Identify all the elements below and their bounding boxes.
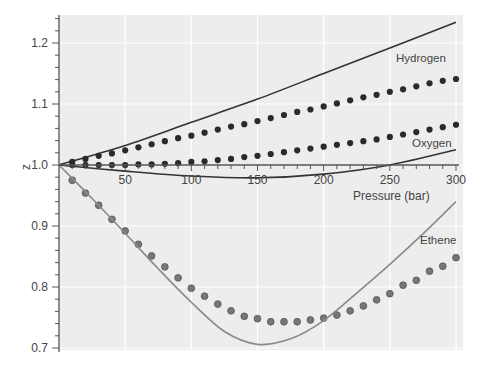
data-point [228, 156, 234, 162]
data-point [400, 131, 406, 137]
data-point [440, 124, 446, 130]
data-point [374, 136, 380, 142]
data-point [439, 263, 446, 270]
data-point [440, 78, 446, 84]
data-point [96, 153, 102, 159]
y-tick-label: 1.1 [31, 97, 48, 111]
data-point [334, 142, 340, 148]
data-point [188, 133, 194, 139]
x-tick-label: 300 [446, 173, 466, 187]
data-point [426, 268, 433, 275]
x-tick-label: 250 [380, 173, 400, 187]
data-point [347, 97, 353, 103]
data-point [268, 151, 274, 157]
data-point [135, 144, 141, 150]
data-point [373, 296, 380, 303]
data-point [374, 92, 380, 98]
data-point [321, 103, 327, 109]
data-point [321, 144, 327, 150]
data-point [241, 121, 247, 127]
data-point [294, 109, 300, 115]
data-point [254, 153, 260, 159]
y-tick-label: 0.8 [31, 280, 48, 294]
data-point [161, 263, 168, 270]
x-tick-label: 50 [118, 173, 132, 187]
data-point [267, 318, 274, 325]
data-point [453, 76, 459, 82]
data-point [188, 159, 194, 165]
data-point [294, 147, 300, 153]
data-point [268, 115, 274, 121]
data-point [307, 145, 313, 151]
data-point [307, 106, 313, 112]
data-point [294, 318, 301, 325]
data-point [347, 307, 354, 314]
data-point [387, 134, 393, 140]
y-tick-label: 0.9 [31, 219, 48, 233]
data-point [281, 112, 287, 118]
data-point [360, 303, 367, 310]
data-point [400, 282, 407, 289]
data-point [201, 293, 208, 300]
label-ethene: Ethene [420, 234, 456, 246]
data-point [215, 127, 221, 133]
data-point [254, 118, 260, 124]
data-point [360, 94, 366, 100]
x-axis-title: Pressure (bar) [353, 189, 430, 203]
data-point [149, 141, 155, 147]
data-point [413, 277, 420, 284]
data-point [281, 149, 287, 155]
data-point [228, 307, 235, 314]
data-point [175, 274, 182, 281]
data-point [241, 154, 247, 160]
data-point [122, 147, 128, 153]
data-point [82, 156, 88, 162]
data-point [347, 140, 353, 146]
data-point [254, 315, 261, 322]
data-point [162, 138, 168, 144]
y-tick-label: 0.7 [31, 341, 48, 355]
data-point [426, 80, 432, 86]
y-axis-title: z [19, 164, 33, 170]
data-point [201, 130, 207, 136]
data-point [387, 89, 393, 95]
x-tick-label: 150 [247, 173, 267, 187]
label-oxygen: Oxygen [412, 137, 452, 149]
data-point [426, 127, 432, 133]
data-point [334, 100, 340, 106]
data-point [201, 158, 207, 164]
data-point [453, 254, 460, 261]
data-point [413, 129, 419, 135]
data-point [400, 86, 406, 92]
data-point [281, 318, 288, 325]
data-point [453, 122, 459, 128]
x-tick-label: 100 [181, 173, 201, 187]
data-point [214, 301, 221, 308]
data-point [241, 313, 248, 320]
y-tick-label: 1.0 [31, 158, 48, 172]
data-point [360, 138, 366, 144]
x-tick-label: 200 [314, 173, 334, 187]
data-point [307, 317, 314, 324]
data-point [386, 290, 393, 297]
y-tick-label: 1.2 [31, 36, 48, 50]
data-point [175, 135, 181, 141]
label-hydrogen: Hydrogen [396, 52, 446, 64]
data-point [109, 150, 115, 156]
data-point [215, 157, 221, 163]
data-point [228, 123, 234, 129]
data-point [188, 285, 195, 292]
compressibility-chart: 0.70.80.91.01.11.250100150200250300 Pres… [0, 0, 485, 373]
data-point [413, 83, 419, 89]
